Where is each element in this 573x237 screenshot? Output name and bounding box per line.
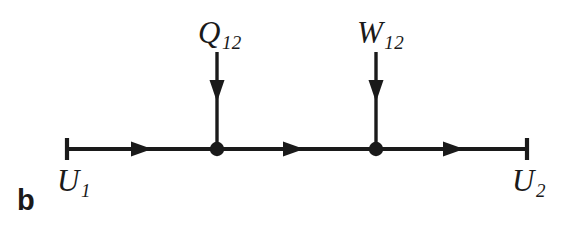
heat-node-dot [210,142,224,156]
heat-input-arrow-icon [210,80,225,102]
state-end-symbol: U [512,163,535,198]
state-start-symbol: U [57,163,80,198]
state-start-subscript: 1 [80,180,91,201]
heat-label-subscript: 12 [221,32,242,53]
process-diagram [0,0,573,237]
flow-arrow-1-icon [131,142,152,157]
state-start-label: U1 [57,165,91,200]
state-end-label: U2 [512,165,546,200]
panel-letter: b [17,186,35,215]
work-input-arrow-icon [369,80,384,102]
flow-arrow-2-icon [283,142,304,157]
work-node-dot [369,142,383,156]
heat-label-symbol: Q [198,15,221,50]
heat-label: Q12 [198,17,242,52]
state-end-subscript: 2 [535,180,546,201]
flow-arrow-3-icon [443,142,464,157]
figure-panel-b: Q12 W12 U1 U2 b [0,0,573,237]
work-label-symbol: W [357,15,383,50]
work-label-subscript: 12 [383,32,404,53]
work-label: W12 [357,17,404,52]
